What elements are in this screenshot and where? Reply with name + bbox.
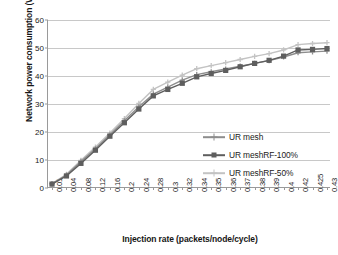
- chart-legend: UR meshUR meshRF-100%UR meshRF-50%: [203, 128, 328, 182]
- y-tick-label: 20: [35, 128, 44, 137]
- legend-label: UR meshRF-50%: [229, 168, 293, 178]
- x-tick-label: 0.43: [330, 178, 338, 192]
- data-point-marker: [209, 63, 214, 68]
- data-point-marker: [238, 57, 243, 62]
- data-point-marker: [252, 54, 257, 59]
- data-point-marker: [165, 87, 170, 92]
- data-point-marker: [107, 134, 112, 139]
- data-point-marker: [310, 41, 315, 46]
- y-tick-label: 30: [35, 100, 44, 109]
- legend-item-2[interactable]: UR meshRF-100%: [203, 146, 328, 164]
- data-point-marker: [165, 80, 170, 85]
- cross-marker-icon: [211, 134, 218, 141]
- data-point-marker: [238, 64, 243, 69]
- data-point-marker: [223, 68, 228, 73]
- legend-label: UR meshRF-100%: [229, 150, 298, 160]
- y-tick-label: 60: [35, 16, 44, 25]
- y-tick-label: 50: [35, 44, 44, 53]
- legend-item-1[interactable]: UR mesh: [203, 128, 328, 146]
- data-point-marker: [252, 61, 257, 66]
- legend-swatch: [203, 167, 225, 179]
- data-point-marker: [281, 54, 286, 59]
- data-point-marker: [295, 47, 300, 52]
- data-point-marker: [93, 148, 98, 153]
- data-point-marker: [180, 81, 185, 86]
- data-point-marker: [136, 106, 141, 111]
- data-point-marker: [267, 58, 272, 63]
- data-point-marker: [194, 74, 199, 79]
- data-point-marker: [122, 120, 127, 125]
- y-tick-label: 40: [35, 72, 44, 81]
- data-point-marker: [78, 161, 83, 166]
- legend-swatch: [203, 131, 225, 143]
- legend-item-3[interactable]: UR meshRF-50%: [203, 164, 328, 182]
- data-point-marker: [324, 40, 329, 45]
- x-axis-title: Injection rate (packets/node/cycle): [46, 234, 334, 244]
- y-tick-label: 0: [40, 184, 44, 193]
- square-marker-icon: [212, 153, 217, 158]
- data-point-marker: [223, 60, 228, 65]
- legend-swatch: [203, 149, 225, 161]
- data-point-marker: [310, 47, 315, 52]
- chart-figure: Network power consumption (W) 0102030405…: [0, 0, 338, 255]
- data-point-marker: [295, 42, 300, 47]
- cross-marker-icon: [211, 170, 218, 177]
- data-point-marker: [180, 73, 185, 78]
- data-point-marker: [267, 51, 272, 56]
- data-point-marker: [209, 71, 214, 76]
- y-tick-label: 10: [35, 156, 44, 165]
- data-point-marker: [324, 46, 329, 51]
- data-point-marker: [281, 47, 286, 52]
- data-point-marker: [64, 173, 69, 178]
- data-point-marker: [194, 66, 199, 71]
- data-point-marker: [151, 93, 156, 98]
- legend-label: UR mesh: [229, 132, 263, 142]
- y-axis-title: Network power consumption (W): [24, 0, 34, 142]
- data-point-marker: [49, 181, 54, 186]
